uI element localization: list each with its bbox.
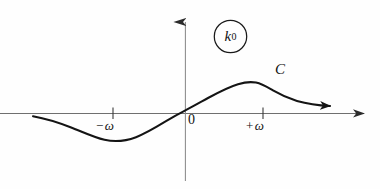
origin-label: 0 <box>188 113 195 127</box>
curve-c-path <box>33 82 330 141</box>
tick-label-positive-omega: +ω <box>246 119 264 132</box>
minus-sign: − <box>96 118 103 133</box>
curve-c <box>33 82 330 141</box>
circled-label-k0: k0 <box>214 20 247 53</box>
k0-subscript: 0 <box>232 32 237 42</box>
k0-base: k <box>224 29 231 44</box>
omega-symbol-right: ω <box>255 118 264 133</box>
curve-label-c: C <box>275 62 285 77</box>
omega-symbol-left: ω <box>105 118 114 133</box>
tick-label-negative-omega: −ω <box>96 119 114 132</box>
math-plot-svg <box>0 0 380 189</box>
plus-sign: + <box>246 118 253 133</box>
figure-canvas: k0 C 0 −ω +ω <box>0 0 380 189</box>
